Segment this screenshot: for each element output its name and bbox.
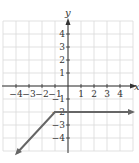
x-tick-label: 2	[91, 89, 97, 99]
y-tick-label: 4	[59, 29, 65, 39]
y-tick-label: 3	[59, 42, 65, 52]
y-tick-label: 1	[59, 68, 65, 78]
x-tick-label: 3	[104, 89, 110, 99]
coordinate-plane: −4−3−2−112344321−1−2−3−4 x y	[0, 0, 139, 163]
y-axis-arrow-icon	[66, 18, 71, 25]
y-tick-label: 2	[59, 55, 65, 65]
x-tick-label: −3	[22, 89, 36, 99]
x-tick-label: 1	[78, 89, 84, 99]
axes	[2, 18, 137, 153]
x-tick-label: 4	[117, 89, 123, 99]
x-axis-label: x	[134, 81, 139, 92]
graph-segment	[17, 112, 55, 153]
y-tick-label: −4	[52, 133, 66, 143]
graph-arrow-icon	[128, 109, 135, 115]
function-graph	[15, 109, 135, 155]
y-axis-label: y	[64, 7, 71, 18]
y-tick-label: −1	[52, 94, 65, 104]
x-tick-label: −4	[9, 89, 23, 99]
y-tick-label: −3	[52, 120, 66, 130]
x-tick-label: −2	[35, 89, 48, 99]
